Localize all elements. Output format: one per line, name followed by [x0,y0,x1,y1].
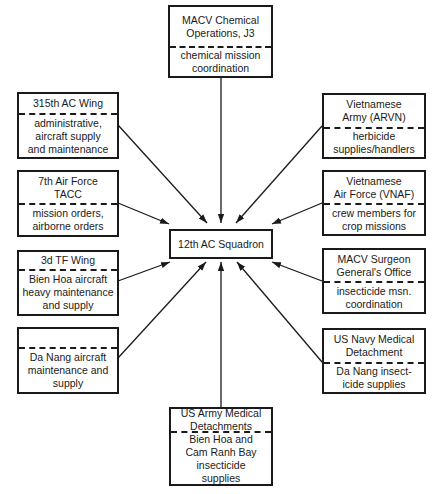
node-macv-surgeon-generals-office: MACV Surgeon General's Office insecticid… [322,248,426,314]
node-title-line: Vietnamese [334,175,415,188]
node-title-line: Detachments [181,420,262,433]
node-role-line: crew members for [332,207,416,220]
node-role-line: aircraft supply [28,130,109,143]
node-title-line: TACC [38,188,98,201]
node-title-line: US Navy Medical [334,333,415,346]
node-title-line: 7th Air Force [38,175,98,188]
node-title: 3d TF Wing [19,252,117,271]
node-role-line: heavy maintenance [22,286,113,299]
node-title-line: General's Office [337,266,412,279]
node-title-line: Air Force (VNAF) [334,188,415,201]
node-title-line: Operations, J3 [182,27,259,40]
node-role-line: and supply [22,299,113,312]
arrow-us-navy [237,262,322,362]
center-label: 12th AC Squadron [178,238,264,250]
node-title-line: MACV Surgeon [337,253,412,266]
arrow-7th-af [118,203,169,224]
node-role-line: Bien Hoa aircraft [22,273,113,286]
node-role-line: maintenance and [28,364,109,377]
node-title-line: US Army Medical [181,407,262,420]
node-da-nang-maintenance: Da Nang aircraft maintenance and supply [17,327,119,394]
node-title-line: Army (ARVN) [342,111,405,124]
node-vietnamese-air-force-vnaf: Vietnamese Air Force (VNAF) crew members… [322,170,426,236]
arrow-3d-tf [118,262,170,281]
node-role-line: Da Nang aircraft [28,351,109,364]
node-macv-chemical-operations: MACV Chemical Operations, J3 chemical mi… [168,5,273,78]
node-us-army-medical-detachments: US Army Medical Detachments Bien Hoa and… [169,407,273,486]
node-role-line: supplies/handlers [333,143,415,156]
node-role-line: coordination [337,298,412,311]
node-us-navy-medical-detachment: US Navy Medical Detachment Da Nang insec… [322,328,426,394]
node-role-line: coordination [181,62,261,75]
node-title-line: Vietnamese [342,98,405,111]
node-7th-air-force-tacc: 7th Air Force TACC mission orders, airbo… [17,170,119,237]
node-title: 315th AC Wing [19,94,117,115]
node-3d-tf-wing: 3d TF Wing Bien Hoa aircraft heavy maint… [17,250,119,316]
node-role-line: mission orders, [32,207,103,220]
node-315th-ac-wing: 315th AC Wing administrative, aircraft s… [17,92,119,159]
node-role-line: supplies [185,472,256,485]
node-role-line: Bien Hoa and [185,433,256,446]
arrow-vnaf [272,203,322,224]
node-vietnamese-army-arvn: Vietnamese Army (ARVN) herbicide supplie… [322,93,426,159]
node-title-line: Detachment [334,346,415,359]
node-role-line: herbicide [333,130,415,143]
node-role-line: insecticide [185,459,256,472]
node-role-line: Da Nang insect- [336,365,411,378]
node-role-line: crop missions [332,220,416,233]
node-role-line: administrative, [28,117,109,130]
node-role-line: chemical mission [181,49,261,62]
node-title-line: MACV Chemical [182,14,259,27]
node-role-line: supply [28,377,109,390]
node-role-line: icide supplies [336,378,411,391]
node-role-line: airborne orders [32,220,103,233]
arrow-surgeon [272,262,322,281]
node-role-line: and maintenance [28,143,109,156]
node-role-line: Cam Ranh Bay [185,446,256,459]
node-12th-ac-squadron: 12th AC Squadron [169,229,273,259]
node-title [19,329,117,349]
node-role-line: insecticide msn. [337,285,412,298]
